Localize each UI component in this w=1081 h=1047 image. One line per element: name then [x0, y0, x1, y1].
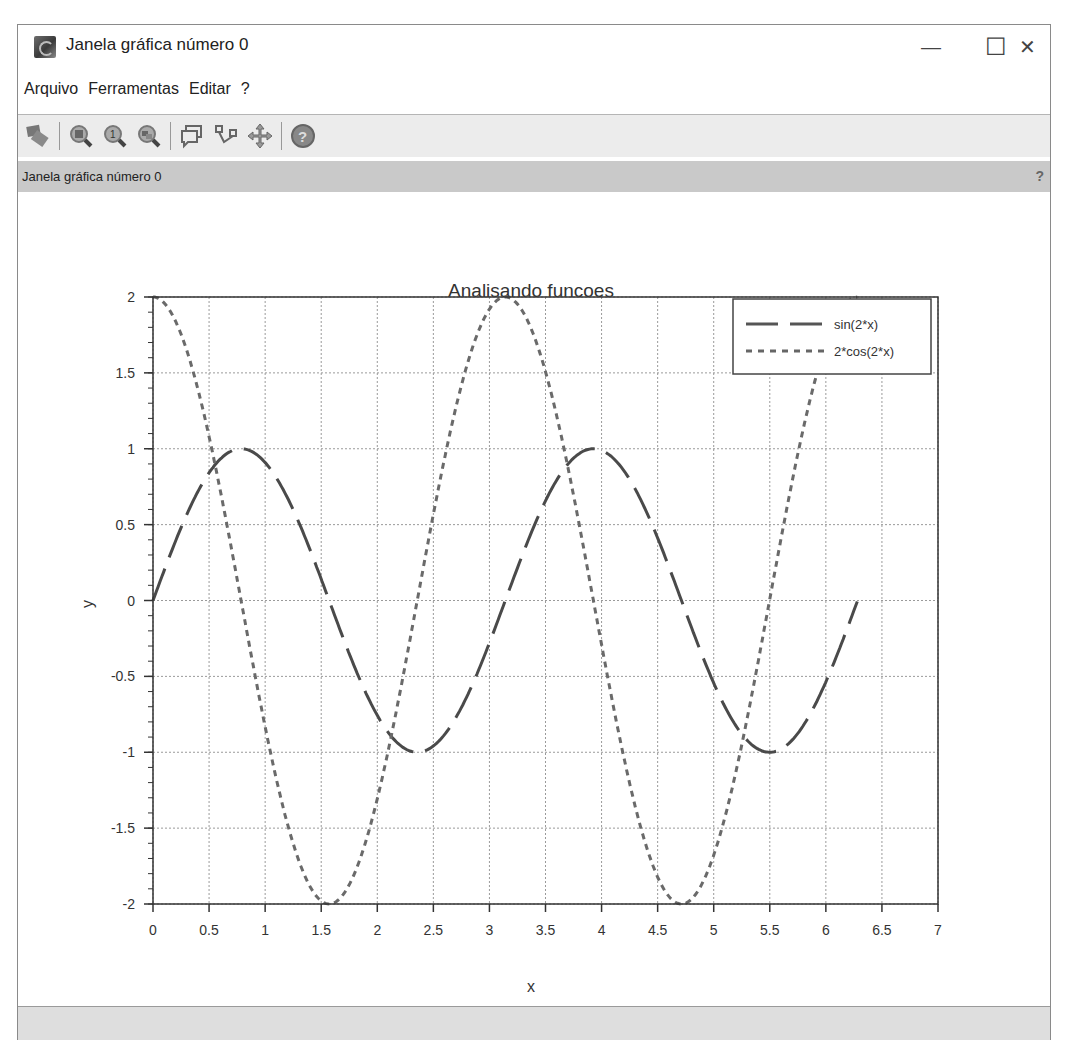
select-figure-button[interactable]	[21, 119, 55, 153]
toolbar: 1 ?	[18, 114, 1050, 157]
x-tick-label: 5	[710, 922, 718, 938]
x-tick-label: 3.5	[536, 922, 556, 938]
zoom-out-icon	[135, 122, 163, 150]
y-tick-label: 0.5	[116, 517, 136, 533]
x-tick-label: 2	[373, 922, 381, 938]
info-bar-text: Janela gráfica número 0	[22, 169, 161, 184]
x-tick-label: 3	[486, 922, 494, 938]
menu-editar[interactable]: Editar	[188, 80, 232, 104]
info-bar: Janela gráfica número 0 ?	[18, 161, 1050, 192]
help-icon: ?	[289, 122, 317, 150]
toolbar-separator	[281, 122, 282, 150]
y-tick-label: 2	[127, 289, 135, 305]
graphic-window: Janela gráfica número 0 — ☐ ✕ Arquivo Fe…	[17, 24, 1051, 1040]
legend-label-sin: sin(2*x)	[834, 317, 878, 332]
x-tick-label: 2.5	[424, 922, 444, 938]
axis-ticks: 00.511.522.533.544.555.566.5721.510.50-0…	[111, 289, 942, 938]
y-tick-label: 1	[127, 441, 135, 457]
plot-canvas[interactable]: Analisando funcoes 00.511.522.533.544.55…	[18, 192, 1050, 1005]
title-bar: Janela gráfica número 0 — ☐ ✕	[18, 25, 1050, 69]
legend-label-cos: 2*cos(2*x)	[834, 344, 894, 359]
zoom-icon	[67, 122, 95, 150]
menu-bar: Arquivo Ferramentas Editar ?	[18, 80, 1050, 104]
pan-button[interactable]	[243, 119, 277, 153]
datatip-button[interactable]	[175, 119, 209, 153]
x-tick-label: 4.5	[648, 922, 668, 938]
x-tick-label: 6.5	[872, 922, 892, 938]
svg-text:1: 1	[110, 129, 116, 140]
zoom-original-icon: 1	[101, 122, 129, 150]
menu-ferramentas[interactable]: Ferramentas	[87, 80, 180, 104]
line-chart[interactable]: Analisando funcoes 00.511.522.533.544.55…	[18, 192, 1050, 1005]
menu-help[interactable]: ?	[240, 80, 251, 104]
grid-lines	[153, 297, 938, 904]
x-tick-label: 7	[934, 922, 942, 938]
chart-title: Analisando funcoes	[448, 280, 614, 301]
legend-box	[733, 299, 931, 374]
x-tick-label: 6	[822, 922, 830, 938]
pan-icon	[246, 122, 274, 150]
x-tick-label: 5.5	[760, 922, 780, 938]
info-help-icon[interactable]: ?	[1035, 168, 1044, 184]
x-tick-label: 4	[598, 922, 606, 938]
zoom-original-button[interactable]: 1	[98, 119, 132, 153]
x-axis-label: x	[527, 978, 535, 995]
y-tick-label: 0	[127, 593, 135, 609]
x-tick-label: 1	[261, 922, 269, 938]
y-tick-label: -1.5	[111, 820, 135, 836]
svg-text:?: ?	[298, 128, 307, 145]
datatip-icon	[178, 122, 206, 150]
edit-curve-button[interactable]	[209, 119, 243, 153]
toolbar-separator	[59, 122, 60, 150]
y-tick-label: 1.5	[116, 365, 136, 381]
window-title: Janela gráfica número 0	[66, 35, 248, 55]
zoom-out-button[interactable]	[132, 119, 166, 153]
chart-legend: sin(2*x) 2*cos(2*x)	[733, 299, 931, 374]
x-tick-label: 0	[149, 922, 157, 938]
status-bar	[18, 1006, 1050, 1040]
edit-curve-icon	[212, 122, 240, 150]
select-figure-icon	[24, 122, 52, 150]
y-tick-label: -1	[123, 744, 136, 760]
y-tick-label: -0.5	[111, 668, 135, 684]
x-tick-label: 1.5	[311, 922, 331, 938]
toolbar-separator	[170, 122, 171, 150]
close-button[interactable]: ✕	[1003, 31, 1051, 63]
y-axis-label: y	[79, 600, 96, 608]
minimize-button[interactable]: —	[911, 31, 951, 63]
menu-arquivo[interactable]: Arquivo	[23, 80, 79, 104]
scilab-app-icon	[34, 36, 56, 58]
x-tick-label: 0.5	[199, 922, 219, 938]
y-tick-label: -2	[123, 896, 136, 912]
zoom-button[interactable]	[64, 119, 98, 153]
help-button[interactable]: ?	[286, 119, 320, 153]
